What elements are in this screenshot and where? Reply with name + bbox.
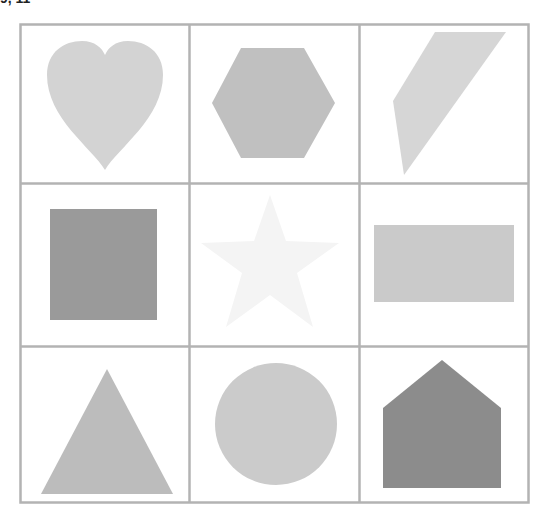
shape-grid [0,0,549,527]
square-shape [50,209,157,320]
rectangle-shape [374,225,514,302]
circle-shape [215,363,337,485]
